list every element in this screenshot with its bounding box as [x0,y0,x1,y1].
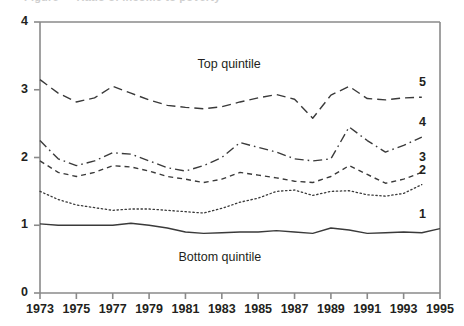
y-tick-label-2: 2 [6,150,28,164]
x-tick-label-1995: 1995 [420,302,460,316]
x-tick-label-1975: 1975 [56,302,96,316]
y-tick-label-4: 4 [6,14,28,28]
series-end-label-5: 5 [419,75,426,89]
x-tick-label-1993: 1993 [384,302,424,316]
chart-container: Figure — Ratio of income to poverty 0123… [0,0,464,326]
x-tick-label-1989: 1989 [311,302,351,316]
x-tick-label-1987: 1987 [275,302,315,316]
series-line-4 [40,127,422,171]
series-end-label-4: 4 [419,115,426,129]
x-tick-label-1981: 1981 [165,302,205,316]
y-tick-label-3: 3 [6,82,28,96]
data-series-lines [40,80,440,234]
series-line-5 [40,80,422,119]
x-tick-label-1983: 1983 [202,302,242,316]
series-end-label-1: 1 [419,207,426,221]
y-tick-label-1: 1 [6,217,28,231]
x-tick-label-1977: 1977 [93,302,133,316]
series-line-2 [40,185,422,213]
series-line-3 [40,161,422,183]
x-tick-label-1991: 1991 [347,302,387,316]
x-tick-label-1973: 1973 [20,302,60,316]
y-tick-label-0: 0 [6,285,28,299]
x-tick-label-1985: 1985 [238,302,278,316]
series-line-1 [40,223,440,233]
annotation-top-quintile: Top quintile [198,57,261,71]
series-end-label-2: 2 [419,163,426,177]
x-tick-label-1979: 1979 [129,302,169,316]
chart-plot-area [0,0,464,326]
annotation-bottom-quintile: Bottom quintile [179,250,262,264]
